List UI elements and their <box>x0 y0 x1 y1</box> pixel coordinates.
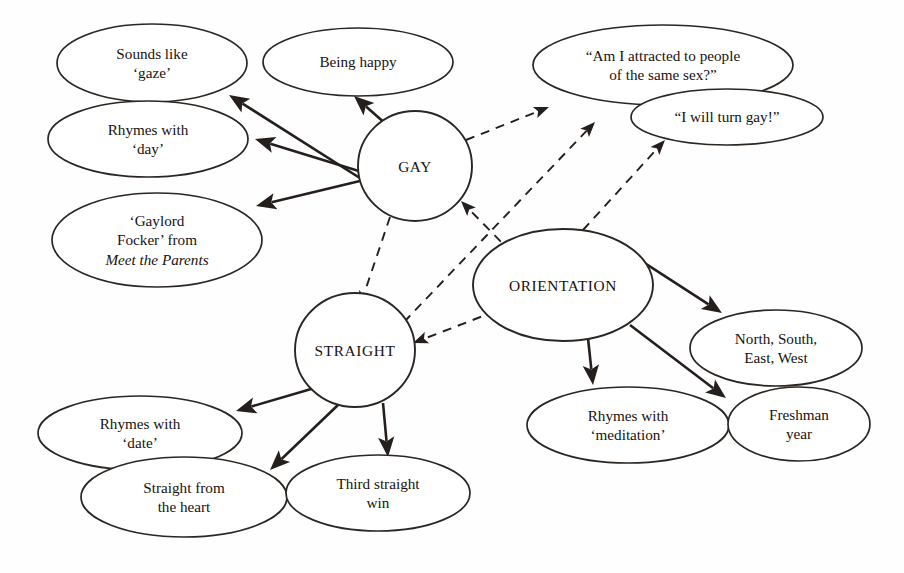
edge-line <box>588 338 591 369</box>
node-label-line: ‘Gaylord <box>130 212 185 229</box>
node-label-line: ‘date’ <box>122 434 157 451</box>
edge-orientation-to-straight <box>413 311 496 343</box>
node-label-line: Freshman <box>769 406 829 423</box>
node-label-line: “Am I attracted to people <box>586 47 741 64</box>
node-label-line: win <box>367 494 390 511</box>
edge-straight-to-date <box>236 387 318 413</box>
hub-node-gay[interactable]: GAY <box>358 111 472 221</box>
node-label-line: Focker’ from <box>117 231 197 248</box>
hub-node-orientation[interactable]: ORIENTATION <box>473 229 653 341</box>
edge-line <box>270 144 362 172</box>
node-outline <box>81 457 287 537</box>
node-label-line: ‘meditation’ <box>590 426 665 443</box>
edge-gay-to-day <box>255 137 362 172</box>
arrow-head-icon <box>705 379 726 398</box>
arrow-head-icon <box>533 107 549 118</box>
node-outline <box>728 387 870 461</box>
node-label-line: Meet the Parents <box>104 251 208 268</box>
node-label-line: Sounds like <box>116 45 188 62</box>
node-layer: Sounds like‘gaze’Being happyRhymes with‘… <box>38 24 870 537</box>
node-label-line: “I will turn gay!” <box>674 108 779 125</box>
node-thirdwin[interactable]: Third straightwin <box>286 455 470 531</box>
node-outline <box>57 24 247 102</box>
arrow-head-icon <box>229 95 250 113</box>
edge-gay-to-attracted <box>466 107 549 140</box>
hub-node-straight[interactable]: STRAIGHT <box>295 293 415 407</box>
node-label-line: of the same sex?” <box>609 66 717 83</box>
node-label-line: ‘gaze’ <box>133 64 171 81</box>
hub-layer: GAYSTRAIGHTORIENTATION <box>295 111 653 407</box>
edge-orientation-to-turngay <box>583 140 665 230</box>
node-label-line: East, West <box>744 349 808 366</box>
node-label-line: Rhymes with <box>100 415 181 432</box>
arrow-head-icon <box>701 295 722 313</box>
node-label-line: ‘day’ <box>132 140 164 157</box>
node-label-line: Straight from <box>143 479 225 496</box>
node-outline <box>690 310 862 386</box>
node-turngay[interactable]: “I will turn gay!” <box>631 89 823 145</box>
node-label-line: the heart <box>158 498 211 515</box>
node-compass[interactable]: North, South,East, West <box>690 310 862 386</box>
node-freshman[interactable]: Freshmanyear <box>728 387 870 461</box>
concept-map-diagram: Sounds like‘gaze’Being happyRhymes with‘… <box>0 0 904 573</box>
edge-line <box>466 111 538 140</box>
edge-line <box>282 405 338 459</box>
node-happy[interactable]: Being happy <box>263 28 453 96</box>
diagram-canvas: Sounds like‘gaze’Being happyRhymes with‘… <box>0 0 904 573</box>
arrow-head-icon <box>413 332 429 343</box>
edge-orientation-to-meditation <box>583 338 599 385</box>
edge-line <box>424 311 496 339</box>
node-label-line: year <box>786 425 812 442</box>
edge-straight-to-thirdwin <box>378 403 394 457</box>
node-label-line: Rhymes with <box>108 121 189 138</box>
edge-line <box>364 217 390 295</box>
edge-line <box>272 180 364 202</box>
node-gaylord[interactable]: ‘GaylordFocker’ fromMeet the Parents <box>52 193 262 287</box>
node-label-line: Being happy <box>319 53 397 70</box>
node-outline <box>48 101 248 177</box>
edge-gay-to-gaylord <box>256 180 364 209</box>
edge-line <box>583 149 657 230</box>
node-label-line: Third straight <box>336 475 420 492</box>
edge-line <box>383 403 387 441</box>
node-label-line: North, South, <box>735 330 817 347</box>
edge-line <box>251 387 318 407</box>
node-outline <box>286 455 470 531</box>
hub-label: ORIENTATION <box>509 277 617 294</box>
node-heart[interactable]: Straight fromthe heart <box>81 457 287 537</box>
node-gaze[interactable]: Sounds like‘gaze’ <box>57 24 247 102</box>
node-outline <box>527 387 729 463</box>
node-label-line: Rhymes with <box>588 407 669 424</box>
node-meditation[interactable]: Rhymes with‘meditation’ <box>527 387 729 463</box>
hub-label: STRAIGHT <box>315 342 396 359</box>
hub-label: GAY <box>398 158 432 175</box>
node-day[interactable]: Rhymes with‘day’ <box>48 101 248 177</box>
